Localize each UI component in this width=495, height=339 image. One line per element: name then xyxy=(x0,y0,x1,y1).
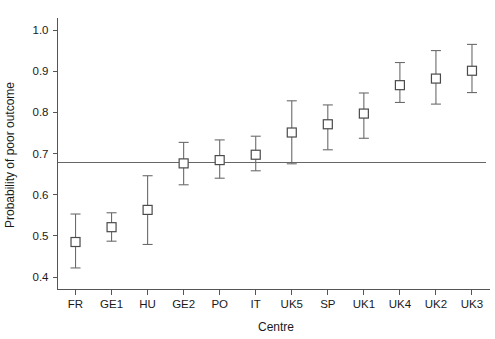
estimate-marker xyxy=(323,120,332,129)
estimate-marker xyxy=(287,128,296,137)
estimate-marker xyxy=(359,109,368,118)
chart-background xyxy=(0,0,495,339)
y-tick-label: 0.6 xyxy=(33,189,49,201)
estimate-marker xyxy=(71,238,80,247)
x-tick-label: FR xyxy=(68,298,83,310)
x-tick-label: GE2 xyxy=(172,298,195,310)
x-tick-label: HU xyxy=(139,298,156,310)
estimate-marker xyxy=(467,66,476,75)
x-tick-label: UK4 xyxy=(389,298,412,310)
x-axis-title: Centre xyxy=(258,320,294,334)
x-tick-label: UK1 xyxy=(353,298,375,310)
estimate-marker xyxy=(431,74,440,83)
x-tick-label: PO xyxy=(211,298,228,310)
probability-of-poor-outcome-chart: 0.40.50.60.70.80.91.0 FRGE1HUGE2POITUK5S… xyxy=(0,0,495,339)
estimate-marker xyxy=(179,159,188,168)
y-tick-label: 0.4 xyxy=(33,271,50,283)
y-axis-title: Probability of poor outcome xyxy=(3,82,17,228)
x-tick-label: IT xyxy=(251,298,261,310)
y-tick-label: 0.7 xyxy=(33,148,49,160)
y-tick-label: 1.0 xyxy=(33,24,49,36)
estimate-marker xyxy=(107,223,116,232)
y-tick-label: 0.5 xyxy=(33,230,49,242)
estimate-marker xyxy=(395,81,404,90)
y-tick-label: 0.8 xyxy=(33,106,49,118)
estimate-marker xyxy=(251,150,260,159)
estimate-marker xyxy=(143,205,152,214)
y-tick-label: 0.9 xyxy=(33,65,49,77)
chart-figure: 0.40.50.60.70.80.91.0 FRGE1HUGE2POITUK5S… xyxy=(0,0,495,339)
x-tick-label: SP xyxy=(320,298,336,310)
estimate-marker xyxy=(215,156,224,165)
x-tick-label: UK3 xyxy=(461,298,483,310)
x-tick-label: UK2 xyxy=(425,298,447,310)
x-tick-label: UK5 xyxy=(281,298,303,310)
x-tick-label: GE1 xyxy=(100,298,123,310)
